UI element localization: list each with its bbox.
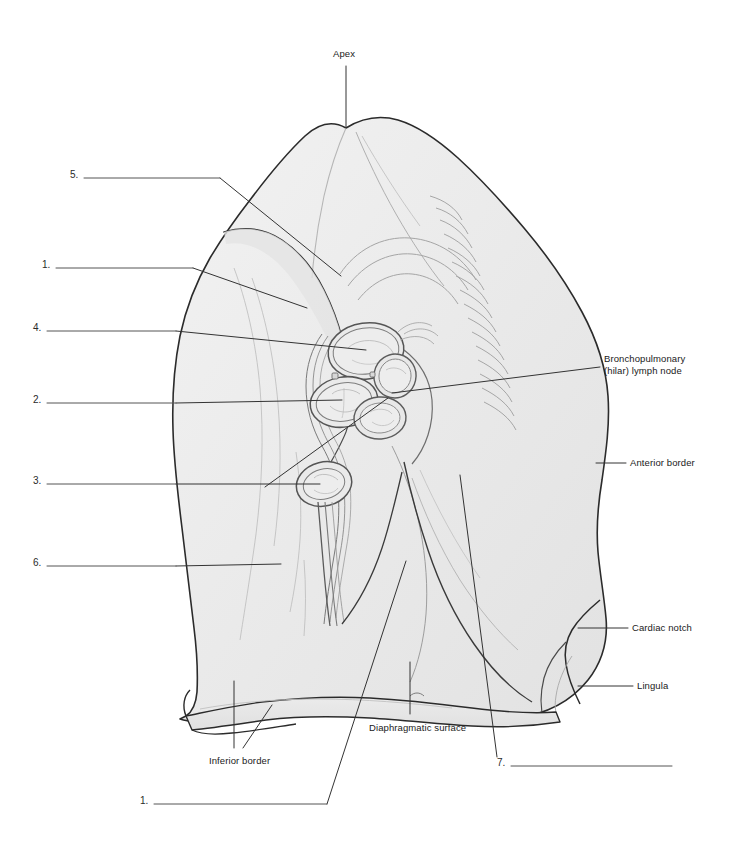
blank-number-3: 3. bbox=[33, 475, 41, 486]
label-anterior-border: Anterior border bbox=[630, 457, 695, 469]
blank-number-5: 5. bbox=[70, 169, 78, 180]
label-diaphragmatic-surface: Diaphragmatic surface bbox=[369, 722, 466, 734]
blank-number-1-lower: 1. bbox=[140, 795, 148, 806]
blank-number-6: 6. bbox=[33, 557, 41, 568]
label-lingula: Lingula bbox=[637, 680, 668, 692]
small-node-a bbox=[332, 373, 338, 379]
inferior-border-edge bbox=[184, 690, 190, 716]
label-apex: Apex bbox=[333, 48, 355, 60]
blank-number-4: 4. bbox=[33, 322, 41, 333]
blank-number-2: 2. bbox=[33, 394, 41, 405]
label-bronchopulmonary-lymph-node: Bronchopulmonary (hilar) lymph node bbox=[604, 353, 685, 377]
blank-number-1-upper: 1. bbox=[42, 259, 50, 270]
blank-number-7: 7. bbox=[497, 757, 505, 768]
lung-anatomy-illustration bbox=[0, 0, 730, 855]
label-cardiac-notch: Cardiac notch bbox=[632, 622, 692, 634]
small-node-b bbox=[370, 372, 375, 377]
label-inferior-border: Inferior border bbox=[209, 755, 270, 767]
figure-page: Apex Bronchopulmonary (hilar) lymph node… bbox=[0, 0, 730, 855]
